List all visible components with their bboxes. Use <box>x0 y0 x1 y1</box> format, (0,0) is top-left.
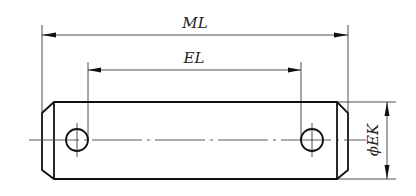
pin-drawing: ML EL ϕEK <box>0 0 416 196</box>
ml-label: ML <box>181 14 207 32</box>
ml-arrow-left-icon <box>42 33 56 38</box>
dia-arrow-top-icon <box>385 102 390 116</box>
dia-label: ϕEK <box>364 123 382 156</box>
ml-arrow-right-icon <box>334 33 348 38</box>
el-arrow-left-icon <box>88 68 101 73</box>
el-arrow-right-icon <box>288 68 301 73</box>
dia-arrow-bottom-icon <box>385 165 390 179</box>
el-dimension: EL <box>88 49 301 140</box>
el-label: EL <box>183 49 205 67</box>
diameter-dimension: ϕEK <box>337 102 396 179</box>
